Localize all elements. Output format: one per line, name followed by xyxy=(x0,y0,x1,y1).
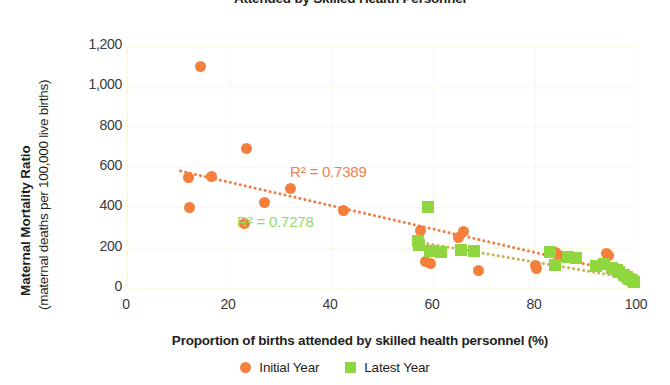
x-axis-tick-label: 80 xyxy=(504,296,564,312)
plot-area xyxy=(126,46,636,288)
trendline xyxy=(418,242,637,280)
chart-title: Attended by Skilled Health Personnel xyxy=(120,0,580,6)
y-axis-title-main: Maternal Mortality Ratio xyxy=(18,145,33,296)
scatter-chart: Attended by Skilled Health Personnel Mat… xyxy=(0,0,670,385)
y-axis-tick-label: 200 xyxy=(62,238,122,254)
y-axis-tick-label: 1,000 xyxy=(62,76,122,92)
y-axis-tick-label: 600 xyxy=(62,157,122,173)
x-axis-title: Proportion of births attended by skilled… xyxy=(60,333,660,348)
trendlines xyxy=(127,46,637,288)
gridline-horizontal xyxy=(127,288,636,289)
legend-item-label: Initial Year xyxy=(259,360,319,375)
legend-item-label: Latest Year xyxy=(364,360,429,375)
x-axis-tick-label: 20 xyxy=(198,296,258,312)
x-axis-tick-label: 0 xyxy=(96,296,156,312)
y-axis-title-sub: (maternal deaths per 100,000 live births… xyxy=(36,80,51,310)
y-axis-tick-label: 1,200 xyxy=(62,36,122,52)
x-axis-tick-label: 100 xyxy=(606,296,666,312)
legend-circle-icon xyxy=(240,362,251,373)
gridline-vertical xyxy=(637,46,638,288)
x-axis-tick-label: 60 xyxy=(402,296,462,312)
y-axis-tick-label: 400 xyxy=(62,197,122,213)
y-axis-tick-label: 800 xyxy=(62,117,122,133)
y-axis-tick-label: 0 xyxy=(62,278,122,294)
legend-item[interactable]: Initial Year xyxy=(240,360,319,375)
r2-annotation-initial-year: R² = 0.7389 xyxy=(290,163,367,180)
y-axis-title-group: Maternal Mortality Ratio (maternal death… xyxy=(0,0,60,310)
x-axis-tick-label: 40 xyxy=(300,296,360,312)
r2-annotation-latest-year: R² = 0.7278 xyxy=(237,213,314,230)
chart-legend: Initial YearLatest Year xyxy=(0,360,670,375)
legend-square-icon xyxy=(345,362,356,373)
legend-item[interactable]: Latest Year xyxy=(345,360,429,375)
